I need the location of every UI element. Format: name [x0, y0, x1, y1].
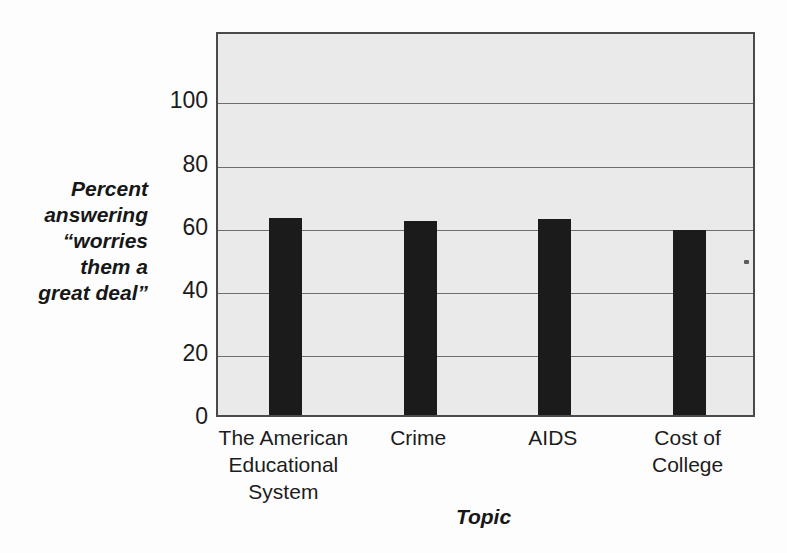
- x-axis-title-text: Topic: [456, 505, 511, 528]
- bar-the-american-educational-system: [269, 218, 302, 415]
- y-axis-title-line-4: them a: [8, 254, 148, 280]
- bar-crime: [404, 221, 437, 415]
- x-axis-category-0-line-1: Educational: [203, 451, 363, 478]
- y-axis-tick-labels: 0 20 40 60 80 100: [150, 32, 208, 417]
- y-axis-tick-60: 60: [160, 216, 208, 239]
- y-axis-tick-0: 0: [160, 405, 208, 428]
- x-axis-category-3-line-0: Cost of: [608, 424, 768, 451]
- y-axis-title: Percent answering “worries them a great …: [8, 176, 148, 306]
- y-axis-tick-40: 40: [160, 279, 208, 302]
- bar-aids: [538, 219, 571, 415]
- y-axis-tick-20: 20: [160, 342, 208, 365]
- x-axis-category-label-3: Cost of College: [608, 424, 768, 478]
- y-axis-title-line-2: answering: [8, 202, 148, 228]
- y-axis-title-line-1: Percent: [8, 176, 148, 202]
- x-axis-category-0-line-2: System: [203, 478, 363, 505]
- gridline-100: [218, 103, 753, 104]
- scan-artifact-speck: [744, 260, 749, 264]
- x-axis-title: Topic: [0, 505, 787, 529]
- y-axis-title-line-3: “worries: [8, 228, 148, 254]
- x-axis-category-3-line-1: College: [608, 451, 768, 478]
- y-axis-tick-80: 80: [160, 153, 208, 176]
- bar-cost-of-college: [673, 230, 706, 415]
- y-axis-title-line-5: great deal”: [8, 280, 148, 306]
- plot-area: [216, 32, 755, 417]
- y-axis-tick-100: 100: [160, 89, 208, 112]
- gridline-80: [218, 167, 753, 168]
